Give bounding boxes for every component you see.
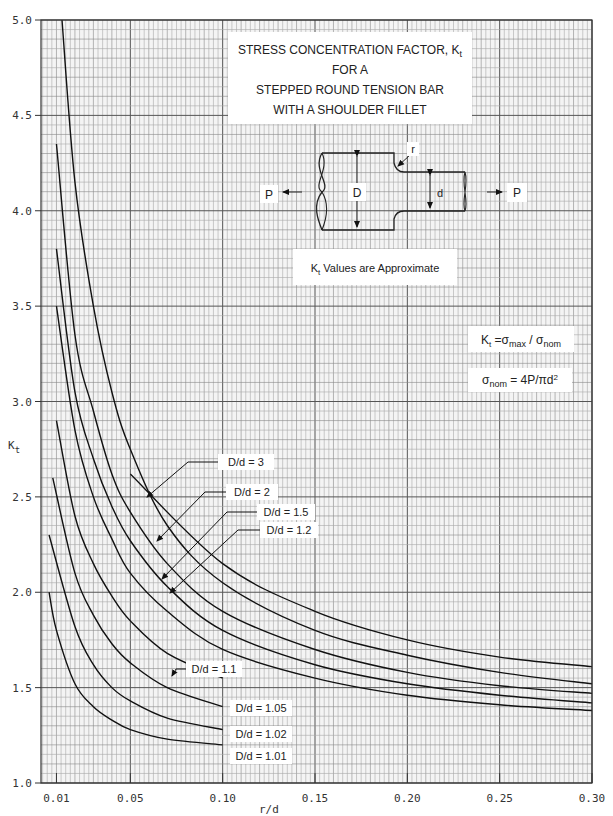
title-line-4: WITH A SHOULDER FILLET [273,103,427,117]
chart: 1.01.52.02.53.03.54.04.55.00.010.050.100… [0,0,613,816]
diagram-label-r: r [411,143,415,155]
y-tick-label: 1.5 [12,682,32,695]
diagram-label-D: D [353,186,362,200]
y-tick-label: 4.5 [12,109,32,122]
grid [41,20,592,783]
y-axis-label: Kt [8,439,20,455]
title-line-3: STEPPED ROUND TENSION BAR [256,83,444,97]
x-tick-label: 0.25 [486,792,513,805]
x-tick-label: 0.01 [43,792,70,805]
y-tick-label: 3.0 [12,396,32,409]
curve-label-dd11: D/d = 1.1 [192,663,237,675]
curve-label-dd12: D/d = 1.2 [267,524,312,536]
y-tick-label: 1.0 [12,777,32,790]
curve-label-dd3: D/d = 3 [228,456,264,468]
x-tick-label: 0.15 [302,792,329,805]
x-tick-label: 0.05 [117,792,144,805]
curve-label-dd2: D/d = 2 [234,486,270,498]
x-axis-label: r/d [259,803,279,816]
curve-label-dd102: D/d = 1.02 [235,728,286,740]
x-tick-label: 0.10 [209,792,236,805]
y-tick-label: 2.0 [12,586,32,599]
title-line-1: STRESS CONCENTRATION FACTOR, Kt [238,43,463,59]
y-tick-label: 5.0 [12,14,32,27]
load-P-right: P [513,186,521,200]
y-tick-label: 3.5 [12,300,32,313]
y-tick-label: 2.5 [12,491,32,504]
title-line-2: FOR A [332,63,368,77]
curve-label-dd101: D/d = 1.01 [235,750,286,762]
y-tick-label: 4.0 [12,205,32,218]
diagram-label-d: d [437,187,443,199]
load-P-left: P [265,188,273,202]
curve-label-dd105: D/d = 1.05 [235,702,286,714]
x-tick-label: 0.20 [394,792,421,805]
x-tick-label: 0.30 [579,792,606,805]
curve-label-dd15: D/d = 1.5 [264,506,309,518]
